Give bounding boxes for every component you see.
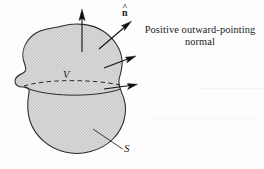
- caption-line-2: normal: [138, 36, 262, 48]
- hat-accent: ^: [122, 2, 127, 12]
- caption-outward-normal: Positive outward-pointing normal: [138, 24, 262, 47]
- surface-label: S: [124, 142, 130, 154]
- normal-vector-label: ^ n: [122, 7, 128, 18]
- figure-container: Positive outward-pointing normal ^ n V S: [0, 0, 264, 169]
- caption-line-1: Positive outward-pointing: [138, 24, 262, 36]
- volume-label: V: [63, 69, 69, 81]
